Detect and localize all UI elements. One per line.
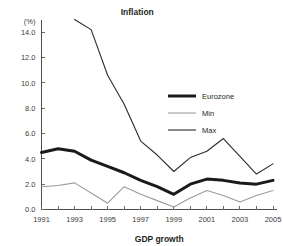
x-tick-label: 1991 [33,215,50,224]
y-tick-label: 2.0 [25,180,35,189]
x-tick-label: 1997 [132,215,149,224]
legend-item-min: Min [168,109,214,118]
x-tick-label: 2001 [199,215,216,224]
x-tick-label: 1995 [99,215,116,224]
legend-label-eurozone: Eurozone [202,92,234,101]
y-tick-label: 0.0 [25,205,35,214]
line-chart-canvas: Inflation0.02.04.06.08.010.012.014.0(%)1… [0,0,283,246]
legend-item-max: Max [168,126,216,135]
legend-label-max: Max [202,126,216,135]
x-tick-label: 2003 [232,215,249,224]
y-tick-label: 10.0 [21,79,36,88]
y-tick-label: 14.0 [21,28,36,37]
chart-title: Inflation [121,7,154,17]
x-tick-label: 1999 [165,215,182,224]
y-tick-label: 6.0 [25,129,35,138]
y-tick-label: 4.0 [25,155,35,164]
x-tick-label: 2005 [265,215,282,224]
legend-item-eurozone: Eurozone [168,92,234,101]
inflation-chart-figure: Inflation0.02.04.06.08.010.012.014.0(%)1… [0,0,283,246]
y-axis-unit-label: (%) [24,17,36,26]
x-axis-caption: GDP growth [135,234,184,244]
x-tick-label: 1993 [66,215,83,224]
y-tick-label: 8.0 [25,104,35,113]
legend-label-min: Min [202,109,214,118]
y-tick-label: 12.0 [21,53,36,62]
